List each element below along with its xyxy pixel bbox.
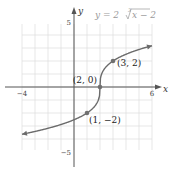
equation-prefix: y = 2 <box>94 10 119 20</box>
y-tick-label: 5 <box>67 19 71 27</box>
point-label: (2, 0) <box>73 75 97 85</box>
y-tick-label: −5 <box>61 149 71 157</box>
x-tick-label: 6 <box>150 90 155 98</box>
function-graph: xy−465−5(1, −2)(2, 0)(3, 2)y = 23x − 2 <box>0 0 172 171</box>
point-label: (1, −2) <box>89 115 121 125</box>
x-axis-arrow <box>155 85 162 90</box>
y-axis-label: y <box>77 6 84 16</box>
x-tick-label: −4 <box>17 90 28 98</box>
point-marker <box>98 85 103 90</box>
point-label: (3, 2) <box>117 58 141 68</box>
point-marker <box>111 59 116 64</box>
equation-label: y = 23x − 2 <box>94 7 156 20</box>
y-axis-arrow <box>72 7 77 14</box>
x-axis-label: x <box>163 84 168 94</box>
axes <box>5 7 162 167</box>
equation-radicand: x − 2 <box>132 10 156 20</box>
labels: xy−465−5(1, −2)(2, 0)(3, 2)y = 23x − 2 <box>17 6 168 157</box>
